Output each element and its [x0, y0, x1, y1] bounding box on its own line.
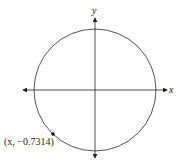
- unit-circle-diagram: x y (x, −0.7314): [0, 0, 178, 161]
- y-axis-label: y: [91, 5, 97, 16]
- x-axis-label: x: [168, 84, 174, 95]
- point-label: (x, −0.7314): [4, 136, 54, 148]
